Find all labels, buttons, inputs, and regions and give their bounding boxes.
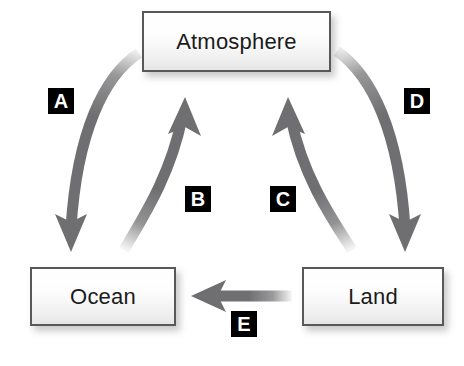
arrow-label-d[interactable]: D	[404, 88, 430, 114]
arrow-b	[124, 97, 201, 250]
arrow-label-b-text: B	[191, 189, 205, 209]
arrow-label-d-text: D	[410, 91, 424, 111]
node-land-label: Land	[348, 286, 398, 308]
arrow-label-a[interactable]: A	[48, 88, 74, 114]
arrow-label-e-text: E	[237, 314, 250, 334]
node-ocean[interactable]: Ocean	[30, 267, 176, 326]
arrow-label-b[interactable]: B	[185, 186, 211, 212]
arrow-label-a-text: A	[54, 91, 68, 111]
arrow-label-e[interactable]: E	[231, 311, 257, 337]
arrow-label-c[interactable]: C	[270, 186, 296, 212]
node-ocean-label: Ocean	[70, 286, 136, 308]
node-atmosphere-label: Atmosphere	[176, 31, 297, 53]
arrow-c	[272, 97, 352, 250]
diagram-canvas: Atmosphere Ocean Land A B C D E	[0, 0, 464, 366]
node-land[interactable]: Land	[302, 267, 444, 326]
arrow-d	[337, 51, 421, 252]
arrow-e	[191, 280, 292, 312]
arrow-a	[55, 53, 139, 252]
node-atmosphere[interactable]: Atmosphere	[142, 11, 331, 72]
arrow-label-c-text: C	[276, 189, 290, 209]
